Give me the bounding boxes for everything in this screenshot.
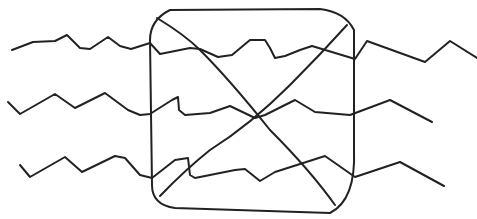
zigzag-line-bottom	[20, 156, 444, 186]
sketch-drawing	[0, 0, 477, 219]
zigzag-line-middle	[8, 93, 432, 122]
sketch-canvas	[0, 0, 477, 219]
diagonal-line-descending	[157, 18, 335, 205]
wavy-line-top	[12, 35, 477, 62]
